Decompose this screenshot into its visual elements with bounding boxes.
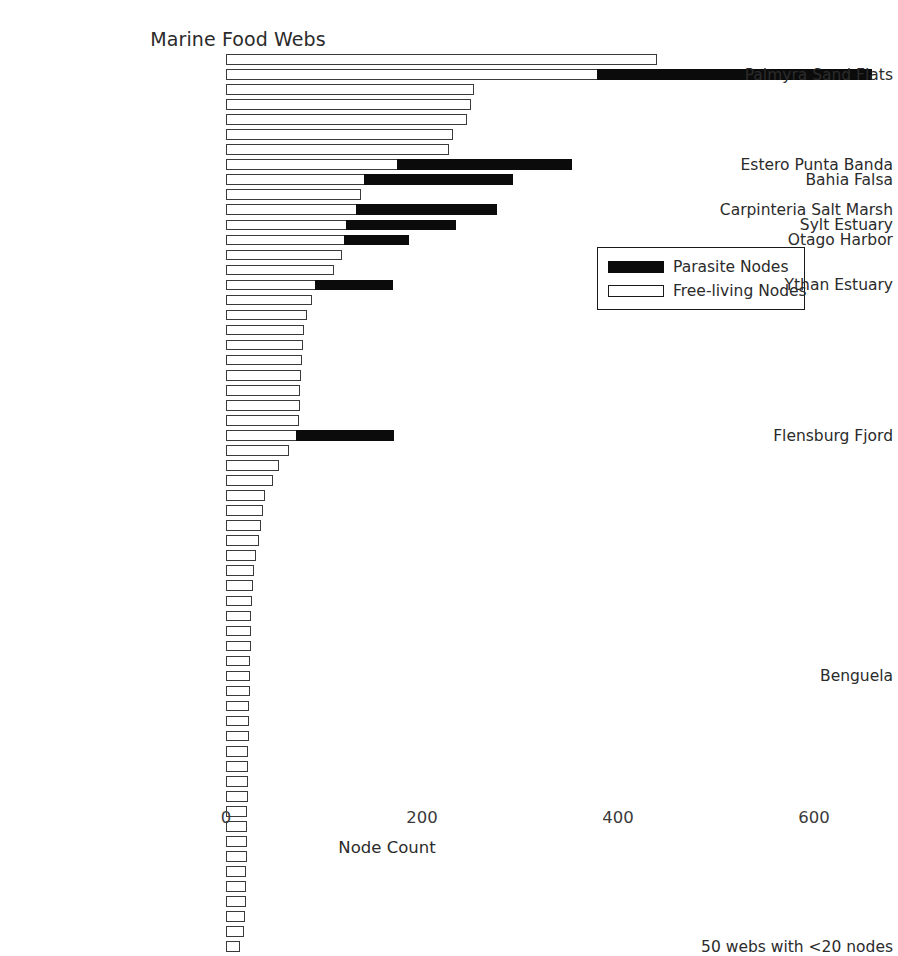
chart-title: Marine Food Webs — [0, 28, 476, 50]
bar-segment-free-living — [226, 565, 254, 576]
bar-segment-free-living — [226, 340, 303, 351]
legend-swatch-free-living-icon — [608, 285, 664, 297]
bar-segment-free-living — [226, 265, 334, 276]
bar-segment-free-living — [226, 220, 348, 231]
y-axis-tick-label: Benguela — [672, 669, 898, 685]
bar-segment-free-living — [226, 505, 263, 516]
bar-segment-free-living — [226, 701, 249, 712]
bar-segment-free-living — [226, 490, 265, 501]
bar-segment-free-living — [226, 370, 301, 381]
x-axis-ticks: 0200400600 — [0, 808, 898, 834]
bar-segment-free-living — [226, 686, 250, 697]
bar-segment-parasite — [346, 220, 456, 231]
bar-segment-free-living — [226, 280, 316, 291]
bar-segment-free-living — [226, 926, 244, 937]
bar-segment-free-living — [226, 430, 298, 441]
y-axis-tick-label: Ythan Estuary — [672, 278, 898, 294]
bar-segment-free-living — [226, 460, 279, 471]
bar-segment-free-living — [226, 84, 474, 95]
bar-segment-free-living — [226, 896, 246, 907]
bar-segment-free-living — [226, 99, 471, 110]
bar-segment-free-living — [226, 911, 245, 922]
bar-segment-free-living — [226, 325, 304, 336]
bar-segment-free-living — [226, 174, 365, 185]
bar-segment-free-living — [226, 746, 248, 757]
bar-segment-free-living — [226, 656, 250, 667]
bar-segment-parasite — [315, 280, 393, 291]
bar-segment-free-living — [226, 144, 449, 155]
bar-segment-free-living — [226, 114, 467, 125]
x-axis-tick-label: 200 — [406, 808, 438, 827]
bar-segment-free-living — [226, 415, 299, 426]
bar-segment-free-living — [226, 475, 273, 486]
bar-segment-parasite — [356, 204, 497, 215]
bar-segment-free-living — [226, 611, 251, 622]
bar-segment-free-living — [226, 641, 251, 652]
y-axis-tick-label: Palmyra Sand Flats — [672, 68, 898, 84]
legend-swatch-parasite-icon — [608, 261, 664, 273]
bar-segment-free-living — [226, 235, 346, 246]
bar-segment-free-living — [226, 866, 246, 877]
bar-segment-free-living — [226, 520, 261, 531]
bar-segment-free-living — [226, 881, 246, 892]
legend-item-parasite: Parasite Nodes — [608, 255, 794, 279]
bar-segment-free-living — [226, 400, 300, 411]
bar-segment-free-living — [226, 941, 240, 952]
bar-segment-free-living — [226, 626, 251, 637]
bar-segment-free-living — [226, 385, 300, 396]
x-axis-tick-label: 0 — [221, 808, 232, 827]
x-axis-tick-label: 400 — [602, 808, 634, 827]
bar-segment-free-living — [226, 731, 249, 742]
y-axis-tick-label: Bahia Falsa — [672, 173, 898, 189]
bar-segment-free-living — [226, 445, 289, 456]
bar-segment-free-living — [226, 535, 259, 546]
bar-segment-free-living — [226, 295, 312, 306]
bar-segment-free-living — [226, 580, 253, 591]
x-axis-tick-label: 600 — [798, 808, 830, 827]
x-axis-label-text: Node Count — [338, 838, 435, 857]
bar-segment-free-living — [226, 189, 361, 200]
bar-segment-free-living — [226, 596, 252, 607]
bar-segment-free-living — [226, 250, 342, 261]
bar-segment-free-living — [226, 791, 248, 802]
bar-segment-free-living — [226, 671, 250, 682]
y-axis-line — [226, 53, 227, 805]
bar-segment-parasite — [344, 235, 409, 246]
y-axis-tick-label: Otago Harbor — [672, 233, 898, 249]
bar-segment-free-living — [226, 355, 302, 366]
bar-segment-free-living — [226, 54, 657, 65]
bar-segment-free-living — [226, 776, 248, 787]
bar-segment-parasite — [296, 430, 394, 441]
bar-segment-free-living — [226, 69, 598, 80]
bar-segment-parasite — [364, 174, 513, 185]
bar-segment-free-living — [226, 550, 256, 561]
x-axis-label: Node Count — [0, 838, 898, 857]
y-axis-tick-label: 50 webs with <20 nodes — [672, 940, 898, 956]
bar-segment-free-living — [226, 310, 307, 321]
bar-segment-free-living — [226, 716, 249, 727]
y-axis-tick-label: Flensburg Fjord — [672, 429, 898, 445]
legend-label-parasite: Parasite Nodes — [673, 258, 788, 276]
bar-segment-free-living — [226, 204, 357, 215]
bar-segment-parasite — [397, 159, 571, 170]
bar-segment-free-living — [226, 761, 248, 772]
bar-segment-free-living — [226, 129, 453, 140]
bar-segment-free-living — [226, 159, 398, 170]
